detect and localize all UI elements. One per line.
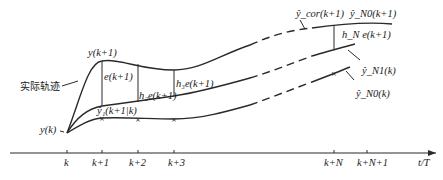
- diagram-canvas: k k+1 k+2 k+3 k+N k+N+1 t/T × × × × 实际轨迹…: [0, 0, 443, 180]
- tick-label-k2: k+2: [129, 157, 147, 168]
- label-hNe: h_N e(k+1): [342, 29, 391, 41]
- tick-label-k3: k+3: [168, 157, 185, 168]
- tick-label-k: k: [64, 157, 69, 168]
- yN1-curve: [67, 78, 250, 133]
- label-e: e(k+1): [104, 71, 133, 83]
- tick-label-kN: k+N: [324, 157, 344, 168]
- mark-k3: ×: [171, 116, 177, 124]
- label-yN0-k1: ŷ_N0(k+1): [349, 8, 397, 20]
- tick-label-kN1: k+N+1: [357, 157, 388, 168]
- corrected-curve-dashed: [250, 28, 312, 45]
- mark-k2: ×: [135, 116, 141, 124]
- label-h2e: h₂e(k+1): [139, 90, 177, 102]
- label-y1-pred: ŷ₁(k+1|k): [96, 105, 137, 117]
- axis-arrow-icon: [428, 150, 436, 156]
- axis-label-t-over-T: t/T: [418, 157, 431, 168]
- label-yk: y(k): [39, 124, 57, 136]
- yN1-curve-dashed: [250, 56, 312, 78]
- leader-actual: [62, 81, 78, 86]
- label-ycor: ŷ_cor(k+1): [295, 8, 344, 20]
- yN0-curve: [67, 105, 250, 133]
- leader-yN1: [348, 50, 360, 60]
- mark-kN: ×: [331, 70, 337, 78]
- corrected-curve-end: [312, 23, 392, 28]
- label-actual-trajectory: 实际轨迹: [20, 80, 60, 92]
- mark-k1: ×: [99, 115, 105, 123]
- label-yk1: y(k+1): [87, 47, 117, 59]
- axis-tick-labels: k k+1 k+2 k+3 k+N k+N+1 t/T: [64, 157, 431, 168]
- leader-ycor: [300, 20, 305, 29]
- label-yN0-k: ŷ_N0(k): [355, 88, 390, 100]
- label-yN1-k: ŷ_N1(k): [361, 65, 396, 77]
- leader-yN0: [346, 71, 354, 80]
- yN0-curve-dashed: [250, 82, 312, 105]
- leader-yk: [60, 131, 64, 132]
- tick-label-k1: k+1: [92, 157, 109, 168]
- label-h3e: h₃e(k+1): [176, 78, 214, 90]
